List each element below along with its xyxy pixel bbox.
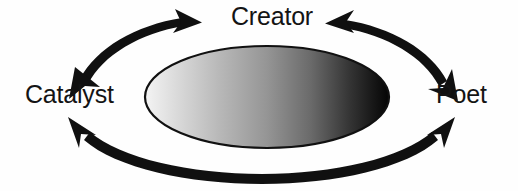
node-label-catalyst: Catalyst — [25, 82, 114, 107]
node-label-creator: Creator — [231, 4, 313, 29]
diagram-canvas: Creator Catalyst Poet — [0, 0, 518, 191]
central-ellipse — [145, 46, 389, 148]
node-label-poet: Poet — [436, 82, 487, 107]
